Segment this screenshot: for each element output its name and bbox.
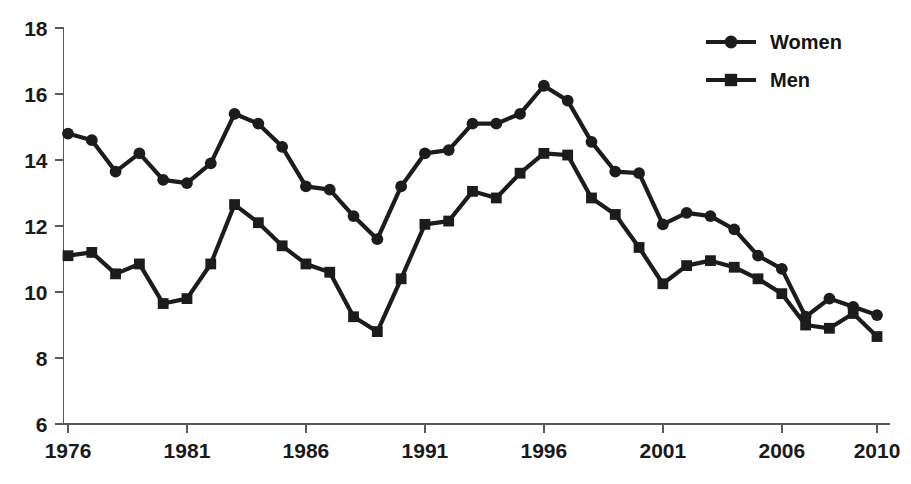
line-chart: 681012141618 197619811986199119962001200… — [0, 0, 911, 484]
data-point-circle — [681, 207, 693, 219]
data-point-circle — [776, 263, 788, 275]
x-tick-label: 2001 — [639, 439, 686, 462]
data-point-square — [348, 311, 359, 322]
y-tick-label: 14 — [24, 149, 48, 172]
x-axis-ticks: 19761981198619911996200120062010 — [45, 424, 901, 462]
legend-item-women[interactable]: Women — [706, 31, 842, 53]
y-tick-label: 16 — [24, 83, 47, 106]
y-tick-label: 12 — [24, 215, 47, 238]
data-point-square — [705, 255, 716, 266]
chart-container: 681012141618 197619811986199119962001200… — [0, 0, 911, 484]
data-point-square — [229, 199, 240, 210]
data-point-square — [396, 273, 407, 284]
y-tick-label: 10 — [24, 281, 47, 304]
legend-marker-square — [725, 74, 737, 86]
data-point-circle — [205, 157, 217, 169]
data-point-circle — [467, 118, 479, 130]
y-axis-ticks: 681012141618 — [24, 17, 63, 436]
data-point-circle — [705, 210, 717, 222]
legend-label: Women — [770, 31, 842, 53]
data-point-circle — [229, 108, 241, 120]
series-women — [62, 80, 883, 323]
data-point-circle — [110, 166, 122, 178]
data-point-square — [182, 293, 193, 304]
data-point-circle — [181, 177, 193, 189]
data-point-square — [158, 298, 169, 309]
data-point-square — [86, 247, 97, 258]
data-point-circle — [395, 181, 407, 193]
data-point-circle — [490, 118, 502, 130]
legend-item-men[interactable]: Men — [706, 69, 810, 91]
x-tick-label: 1976 — [45, 439, 92, 462]
data-point-square — [277, 240, 288, 251]
legend-label: Men — [770, 69, 810, 91]
data-point-square — [753, 273, 764, 284]
data-point-square — [848, 308, 859, 319]
data-point-circle — [633, 167, 645, 179]
data-point-circle — [300, 181, 312, 193]
data-point-square — [515, 168, 526, 179]
data-point-square — [134, 259, 145, 270]
data-point-square — [63, 250, 74, 261]
y-tick-label: 6 — [36, 413, 48, 436]
data-point-circle — [419, 148, 431, 160]
data-point-square — [491, 193, 502, 204]
data-point-square — [110, 268, 121, 279]
data-point-square — [253, 217, 264, 228]
data-point-circle — [86, 134, 98, 146]
data-point-circle — [157, 174, 169, 186]
data-point-square — [824, 323, 835, 334]
data-point-circle — [824, 293, 836, 305]
x-tick-label: 2010 — [854, 439, 901, 462]
data-point-square — [634, 242, 645, 253]
data-point-circle — [133, 148, 145, 160]
data-series — [62, 80, 883, 342]
data-point-square — [420, 219, 431, 230]
data-point-circle — [728, 223, 740, 235]
data-point-circle — [514, 108, 526, 120]
data-point-circle — [276, 141, 288, 153]
data-point-circle — [609, 166, 621, 178]
data-point-circle — [586, 136, 598, 148]
data-point-square — [610, 209, 621, 220]
y-tick-label: 18 — [24, 17, 48, 40]
data-point-square — [372, 326, 383, 337]
data-point-circle — [324, 184, 336, 196]
x-tick-label: 1991 — [402, 439, 449, 462]
data-point-circle — [371, 233, 383, 245]
data-point-square — [657, 278, 668, 289]
chart-legend: WomenMen — [706, 31, 842, 91]
data-point-circle — [657, 218, 669, 230]
data-point-square — [872, 331, 883, 342]
series-men — [63, 148, 883, 342]
data-point-square — [800, 320, 811, 331]
x-tick-label: 1996 — [521, 439, 568, 462]
data-point-circle — [252, 118, 264, 130]
data-point-circle — [871, 309, 883, 321]
y-tick-label: 8 — [36, 347, 48, 370]
data-point-square — [205, 259, 216, 270]
x-tick-label: 2006 — [758, 439, 805, 462]
data-point-square — [586, 193, 597, 204]
data-point-square — [776, 288, 787, 299]
data-point-circle — [62, 128, 74, 140]
data-point-circle — [562, 95, 574, 107]
x-tick-label: 1986 — [283, 439, 330, 462]
data-point-square — [443, 216, 454, 227]
data-point-circle — [538, 80, 550, 92]
data-point-circle — [752, 250, 764, 262]
data-point-square — [467, 186, 478, 197]
chart-axes — [64, 27, 891, 424]
x-tick-label: 1981 — [164, 439, 211, 462]
data-point-circle — [443, 144, 455, 156]
data-point-square — [324, 267, 335, 278]
legend-marker-circle — [725, 36, 738, 49]
data-point-square — [729, 262, 740, 273]
data-point-circle — [348, 210, 360, 222]
data-point-square — [301, 259, 312, 270]
data-point-square — [681, 260, 692, 271]
data-point-square — [562, 150, 573, 161]
data-point-square — [538, 148, 549, 159]
